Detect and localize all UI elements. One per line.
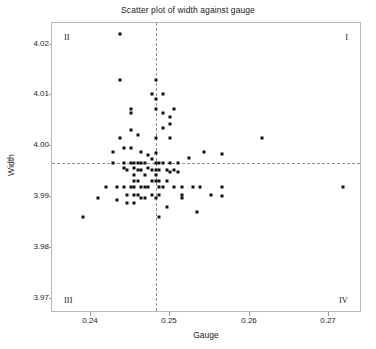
data-point bbox=[220, 195, 223, 198]
data-point bbox=[187, 156, 190, 159]
data-point bbox=[140, 186, 143, 189]
data-point bbox=[140, 162, 143, 165]
data-point bbox=[115, 198, 118, 201]
data-point bbox=[165, 179, 168, 182]
data-point bbox=[162, 127, 165, 130]
data-point bbox=[122, 146, 125, 149]
data-point bbox=[158, 216, 161, 219]
x-axis-label: Gauge bbox=[51, 330, 361, 340]
data-point bbox=[133, 186, 136, 189]
x-tick-mark bbox=[249, 312, 250, 316]
data-point bbox=[173, 186, 176, 189]
chart-title: Scatter plot of width against gauge bbox=[0, 5, 376, 15]
data-point bbox=[129, 111, 132, 114]
plot-inner bbox=[52, 23, 360, 311]
data-point bbox=[191, 186, 194, 189]
data-point bbox=[158, 186, 161, 189]
y-tick-label-3.98: 3.98 bbox=[3, 242, 49, 251]
data-point bbox=[133, 201, 136, 204]
data-point bbox=[147, 167, 150, 170]
data-point bbox=[111, 162, 114, 165]
data-point bbox=[176, 171, 179, 174]
data-point bbox=[180, 197, 183, 200]
data-point bbox=[144, 197, 147, 200]
data-point bbox=[176, 162, 179, 165]
quadrant-label-I: I bbox=[345, 32, 348, 42]
y-tick-label-3.97: 3.97 bbox=[3, 293, 49, 302]
quadrant-label-II: II bbox=[64, 32, 70, 42]
quadrant-label-IV: IV bbox=[339, 295, 348, 305]
data-point bbox=[155, 97, 158, 100]
data-point bbox=[155, 78, 158, 81]
data-point bbox=[151, 92, 154, 95]
data-point bbox=[162, 186, 165, 189]
data-point bbox=[144, 173, 147, 176]
x-tick-label-0.27: 0.27 bbox=[308, 316, 348, 325]
data-point bbox=[81, 216, 84, 219]
data-point bbox=[144, 162, 147, 165]
data-point bbox=[151, 179, 154, 182]
data-point bbox=[140, 197, 143, 200]
x-tick-mark bbox=[328, 312, 329, 316]
data-point bbox=[129, 107, 132, 110]
data-point bbox=[133, 167, 136, 170]
data-point bbox=[155, 107, 158, 110]
data-point bbox=[169, 162, 172, 165]
data-point bbox=[220, 186, 223, 189]
data-point bbox=[126, 168, 129, 171]
data-point bbox=[140, 151, 143, 154]
data-point bbox=[169, 171, 172, 174]
data-point bbox=[118, 78, 121, 81]
data-point bbox=[140, 168, 143, 171]
data-point bbox=[158, 162, 161, 165]
data-point bbox=[162, 162, 165, 165]
data-point bbox=[111, 150, 114, 153]
data-point bbox=[151, 193, 154, 196]
data-point bbox=[162, 111, 165, 114]
data-point bbox=[147, 186, 150, 189]
data-point bbox=[115, 186, 118, 189]
data-point bbox=[158, 193, 161, 196]
data-point bbox=[129, 146, 132, 149]
data-point bbox=[104, 186, 107, 189]
data-point bbox=[155, 151, 158, 154]
y-axis-label: Width bbox=[6, 135, 16, 195]
data-point bbox=[155, 173, 158, 176]
x-tick-label-0.25: 0.25 bbox=[149, 316, 189, 325]
data-point bbox=[341, 186, 344, 189]
data-point bbox=[151, 158, 154, 161]
data-point bbox=[180, 186, 183, 189]
data-point bbox=[158, 168, 161, 171]
data-point bbox=[261, 137, 264, 140]
data-point bbox=[96, 197, 99, 200]
horizontal-reference-line bbox=[52, 163, 360, 164]
data-point bbox=[133, 162, 136, 165]
data-point bbox=[147, 154, 150, 157]
data-point bbox=[118, 137, 121, 140]
y-tick-label-4.02: 4.02 bbox=[3, 39, 49, 48]
data-point bbox=[137, 179, 140, 182]
x-tick-mark bbox=[90, 312, 91, 316]
data-point bbox=[137, 134, 140, 137]
x-tick-mark bbox=[169, 312, 170, 316]
data-point bbox=[126, 201, 129, 204]
data-point bbox=[158, 179, 161, 182]
data-point bbox=[198, 186, 201, 189]
x-tick-label-0.26: 0.26 bbox=[229, 316, 269, 325]
data-point bbox=[202, 151, 205, 154]
data-point bbox=[122, 162, 125, 165]
data-point bbox=[195, 210, 198, 213]
data-point bbox=[209, 193, 212, 196]
data-point bbox=[165, 205, 168, 208]
quadrant-label-III: III bbox=[64, 295, 73, 305]
data-point bbox=[118, 33, 121, 36]
data-point bbox=[126, 193, 129, 196]
plot-area: II I III IV bbox=[51, 22, 361, 312]
data-point bbox=[155, 197, 158, 200]
x-tick-label-0.24: 0.24 bbox=[70, 316, 110, 325]
data-point bbox=[169, 137, 172, 140]
data-point bbox=[122, 186, 125, 189]
data-point bbox=[155, 137, 158, 140]
data-point bbox=[220, 152, 223, 155]
data-point bbox=[151, 168, 154, 171]
